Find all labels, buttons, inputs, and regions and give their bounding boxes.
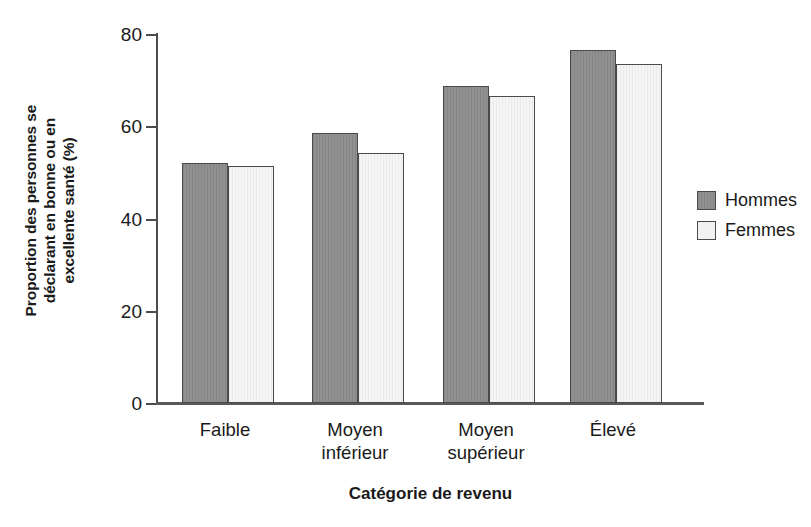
y-tick-label-40: 40: [96, 210, 142, 229]
x-category-label-eleve: Élevé: [528, 418, 698, 441]
y-tick-label-20: 20: [96, 302, 142, 321]
bar-hommes-moyen-superieur: [443, 86, 489, 403]
legend-item-hommes: Hommes: [697, 186, 811, 214]
y-axis-title: Proportion des personnes se déclarant en…: [0, 0, 100, 420]
y-tick-label-80: 80: [96, 25, 142, 44]
y-axis-title-line-3: excellente santé (%): [60, 104, 79, 316]
x-category-label-moyen-superieur-line-2: supérieur: [401, 441, 571, 464]
cropped-title-strip: [520, 0, 660, 6]
y-tick-label-0: 0: [96, 394, 142, 413]
bar-femmes-moyen-inferieur: [358, 153, 404, 403]
y-tick-label-60: 60: [96, 117, 142, 136]
x-category-label-faible-line-1: Faible: [200, 419, 250, 440]
legend-label-hommes: Hommes: [725, 190, 797, 211]
y-axis-title-line-2: déclarant en bonne ou en: [41, 104, 60, 316]
x-category-label-moyen-inferieur-line-1: Moyen: [327, 419, 383, 440]
x-category-label-moyen-superieur-line-1: Moyen: [458, 419, 514, 440]
bar-femmes-eleve: [616, 64, 662, 403]
x-axis-title: Catégorie de revenu: [156, 484, 705, 504]
legend-item-femmes: Femmes: [697, 216, 811, 244]
x-category-label-eleve-line-1: Élevé: [590, 419, 636, 440]
bar-chart-figure: Proportion des personnes se déclarant en…: [0, 0, 811, 527]
bar-femmes-faible: [228, 166, 274, 403]
legend-label-femmes: Femmes: [725, 220, 795, 241]
bar-femmes-moyen-superieur: [489, 96, 535, 403]
bar-hommes-moyen-inferieur: [312, 133, 358, 403]
legend-swatch-hommes-icon: [697, 191, 716, 210]
bar-hommes-eleve: [570, 50, 616, 403]
legend: Hommes Femmes: [697, 186, 811, 246]
legend-swatch-femmes-icon: [697, 221, 716, 240]
y-axis-title-line-1: Proportion des personnes se: [22, 104, 41, 316]
plot-area: [156, 34, 705, 403]
bar-hommes-faible: [182, 163, 228, 403]
